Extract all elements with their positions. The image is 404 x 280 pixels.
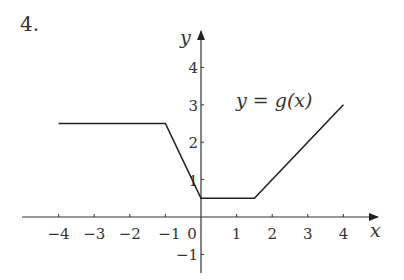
x-axis-label: x — [370, 219, 381, 241]
y-tick-label: −1 — [176, 246, 198, 264]
x-tick-label: 3 — [303, 225, 313, 243]
y-axis-label: y — [179, 26, 191, 48]
function-graph: −4−3−2−101234 −11234 x y y = g(x) — [0, 0, 404, 280]
x-tick-label: −4 — [48, 225, 70, 243]
x-tick-label: −1 — [158, 225, 180, 243]
x-tick-label: 2 — [267, 225, 277, 243]
y-tick-label: 3 — [188, 97, 198, 115]
function-label: y = g(x) — [235, 89, 312, 111]
x-tick-label: −2 — [119, 225, 141, 243]
x-tick-label: −3 — [83, 225, 105, 243]
x-tick-label: 4 — [339, 225, 349, 243]
x-tick-label: 1 — [232, 225, 242, 243]
y-tick-label: 2 — [188, 134, 198, 152]
x-tick-label: 0 — [187, 225, 197, 243]
y-tick-label: 4 — [188, 59, 198, 77]
x-ticks: −4−3−2−101234 — [48, 214, 349, 243]
